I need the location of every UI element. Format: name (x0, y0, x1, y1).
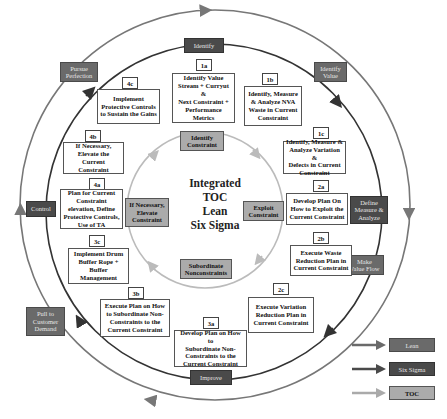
step-box-4a: Plan for Current Constraint elevation, D… (60, 189, 123, 229)
phase-identify: Identify (184, 38, 224, 53)
toc-elevate-constraint: If Necessary, Elevate Constraint (125, 198, 169, 227)
phase-pull-to-customer-demand: Pull to Customer Demand (26, 307, 65, 336)
step-box-3b: Execute Plan on How to Subordinate Non- … (100, 299, 170, 337)
toc-identify-constraint: Identify Constraint (180, 131, 224, 151)
step-tag-4b: 4b (85, 130, 101, 142)
step-box-2c: Execute Variation Reduction Plan in Curr… (248, 297, 314, 333)
phase-improve: Improve (190, 370, 232, 385)
center-title-line: Integrated (165, 176, 265, 190)
step-tag-4c: 4c (122, 77, 138, 89)
legend-toc: TOC (389, 386, 435, 400)
step-box-4c: Implement Protective Controls to Sustain… (97, 89, 160, 124)
phase-control: Control (26, 201, 56, 217)
step-box-4b: If Necessary, Elevate the Current Constr… (63, 142, 124, 174)
phase-define-measure-analyze: Define Measure & Analyze (350, 196, 388, 224)
step-box-3a: Develop Plan on How to Subordinate Non- … (174, 330, 247, 367)
step-box-1c: Identify, Measure & Analyze Variation & … (283, 141, 346, 174)
step-box-1a: Identify Value Stream + Curryut & Next C… (172, 73, 235, 123)
step-tag-1a: 1a (196, 59, 212, 71)
toc-exploit-constraint: Exploit Constraint (243, 201, 284, 221)
step-box-2b: Execute Waste Reduction Plan in Current … (290, 245, 352, 276)
step-tag-3c: 3c (89, 235, 105, 247)
toc-subordinate-nonconstraints: Subordinate Nonconstraints (180, 259, 232, 279)
step-box-3c: Implement Drum Buffer Rope + Buffer Mana… (68, 248, 129, 284)
legend-six-sigma: Six Sigma (389, 362, 435, 376)
legend-lean: Lean (389, 338, 435, 352)
step-box-1b: Identify, Measure & Analyze NVA Waste in… (244, 86, 302, 126)
step-tag-2a: 2a (313, 180, 329, 192)
step-box-2a: Develop Plan On How to Exploit the Curre… (286, 193, 348, 225)
phase-identify-value: Identify Value (314, 62, 347, 82)
step-tag-1b: 1b (262, 73, 278, 85)
step-tag-2c: 2c (273, 283, 289, 295)
step-tag-2b: 2b (313, 232, 329, 244)
phase-pursue-perfection: Pursue Perfection (60, 62, 98, 82)
step-tag-3b: 3b (128, 287, 144, 299)
step-tag-3a: 3a (203, 317, 219, 329)
